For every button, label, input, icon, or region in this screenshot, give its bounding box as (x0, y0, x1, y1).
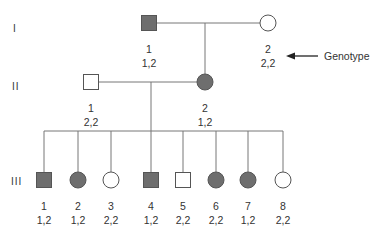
individual-number-II-1: 1 (76, 103, 106, 114)
individual-number-III-3: 3 (96, 201, 126, 212)
individual-number-III-1: 1 (29, 201, 59, 212)
individual-number-III-4: 4 (136, 201, 166, 212)
genotype-label-I-2: 2,2 (253, 58, 283, 69)
individual-number-I-1: 1 (134, 44, 164, 55)
genotype-label-III-2: 1,2 (63, 215, 93, 226)
genotype-label-II-2: 1,2 (190, 117, 220, 128)
affected-female-symbol-III-7 (240, 172, 256, 188)
genotype-label-I-1: 1,2 (134, 58, 164, 69)
unaffected-female-symbol-III-8 (275, 172, 291, 188)
individual-number-II-2: 2 (190, 103, 220, 114)
genotype-label-III-7: 1,2 (233, 215, 263, 226)
unaffected-male-symbol-III-5 (176, 173, 191, 188)
pedigree-chart (0, 0, 371, 230)
generation-label-I: I (13, 23, 17, 34)
unaffected-female-symbol-III-3 (103, 172, 119, 188)
genotype-label-III-6: 2,2 (201, 215, 231, 226)
genotype-label-III-3: 2,2 (96, 215, 126, 226)
genotype-label-III-5: 2,2 (168, 215, 198, 226)
genotype-label-III-4: 1,2 (136, 215, 166, 226)
affected-male-symbol-III-1 (37, 173, 52, 188)
genotype-legend-label: Genotype (324, 50, 370, 62)
generation-label-III: III (11, 176, 22, 187)
unaffected-male-symbol-II-1 (84, 75, 99, 90)
affected-male-symbol-III-4 (144, 173, 159, 188)
affected-female-symbol-II-2 (197, 74, 213, 90)
individual-number-III-8: 8 (268, 201, 298, 212)
generation-label-II: II (12, 81, 20, 92)
genotype-label-II-1: 2,2 (76, 117, 106, 128)
affected-female-symbol-III-2 (70, 172, 86, 188)
arrow-left-icon (286, 53, 318, 60)
affected-male-symbol-I-1 (142, 16, 157, 31)
individual-number-III-2: 2 (63, 201, 93, 212)
unaffected-female-symbol-I-2 (260, 15, 276, 31)
genotype-label-III-1: 1,2 (29, 215, 59, 226)
individual-number-III-6: 6 (201, 201, 231, 212)
individual-number-III-7: 7 (233, 201, 263, 212)
individual-number-I-2: 2 (253, 44, 283, 55)
individual-number-III-5: 5 (168, 201, 198, 212)
genotype-label-III-8: 2,2 (268, 215, 298, 226)
affected-female-symbol-III-6 (208, 172, 224, 188)
